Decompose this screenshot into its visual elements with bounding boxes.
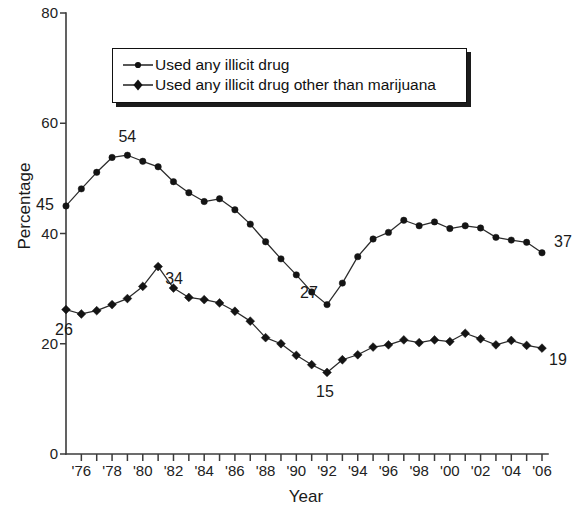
data-point-diamond[interactable] bbox=[307, 360, 316, 369]
data-point-circle[interactable] bbox=[140, 158, 146, 164]
data-point-diamond[interactable] bbox=[476, 334, 485, 343]
data-point-diamond[interactable] bbox=[77, 310, 86, 319]
series-line-0 bbox=[66, 155, 542, 304]
y-tick-label: 60 bbox=[14, 115, 58, 130]
data-point-circle[interactable] bbox=[94, 169, 100, 175]
legend-label-0: Used any illicit drug bbox=[155, 57, 289, 73]
data-point-circle[interactable] bbox=[370, 236, 376, 242]
data-point-diamond[interactable] bbox=[415, 338, 424, 347]
data-point-circle[interactable] bbox=[431, 219, 437, 225]
data-point-diamond[interactable] bbox=[108, 300, 117, 309]
value-annotation: 37 bbox=[554, 234, 572, 250]
data-point-diamond[interactable] bbox=[461, 329, 470, 338]
diamond-marker-icon bbox=[121, 76, 155, 94]
data-point-circle[interactable] bbox=[63, 203, 69, 209]
data-point-circle[interactable] bbox=[477, 225, 483, 231]
data-point-circle[interactable] bbox=[416, 223, 422, 229]
value-annotation: 54 bbox=[118, 129, 136, 145]
x-axis-title: Year bbox=[66, 487, 546, 507]
data-point-diamond[interactable] bbox=[231, 307, 240, 316]
chart-legend: Used any illicit drug Used any illicit d… bbox=[112, 48, 467, 103]
circle-marker-icon bbox=[121, 56, 155, 74]
legend-entry-any-illicit-drug[interactable]: Used any illicit drug bbox=[121, 55, 458, 75]
data-point-diamond[interactable] bbox=[445, 337, 454, 346]
value-annotation: 19 bbox=[549, 352, 567, 368]
legend-label-1: Used any illicit drug other than marijua… bbox=[155, 77, 436, 93]
data-point-circle[interactable] bbox=[109, 154, 115, 160]
data-point-circle[interactable] bbox=[247, 221, 253, 227]
y-axis-title: Percentage bbox=[15, 146, 35, 266]
data-point-circle[interactable] bbox=[232, 207, 238, 213]
data-point-diamond[interactable] bbox=[62, 305, 71, 314]
data-point-circle[interactable] bbox=[216, 196, 222, 202]
value-annotation: 27 bbox=[300, 285, 318, 301]
legend-entry-other-than-marijuana[interactable]: Used any illicit drug other than marijua… bbox=[121, 75, 458, 95]
data-point-diamond[interactable] bbox=[200, 295, 209, 304]
data-point-circle[interactable] bbox=[324, 301, 330, 307]
data-point-circle[interactable] bbox=[539, 250, 545, 256]
data-point-circle[interactable] bbox=[355, 253, 361, 259]
data-point-circle[interactable] bbox=[462, 223, 468, 229]
data-point-circle[interactable] bbox=[124, 152, 130, 158]
data-point-circle[interactable] bbox=[385, 229, 391, 235]
data-point-circle[interactable] bbox=[523, 239, 529, 245]
value-annotation: 45 bbox=[36, 197, 54, 213]
data-point-circle[interactable] bbox=[170, 178, 176, 184]
data-point-diamond[interactable] bbox=[538, 344, 547, 353]
data-point-circle[interactable] bbox=[186, 190, 192, 196]
data-point-diamond[interactable] bbox=[369, 343, 378, 352]
data-point-diamond[interactable] bbox=[522, 341, 531, 350]
data-point-diamond[interactable] bbox=[492, 340, 501, 349]
data-point-circle[interactable] bbox=[508, 237, 514, 243]
data-point-diamond[interactable] bbox=[430, 335, 439, 344]
data-point-circle[interactable] bbox=[201, 198, 207, 204]
data-point-diamond[interactable] bbox=[399, 335, 408, 344]
data-point-diamond[interactable] bbox=[353, 350, 362, 359]
data-point-circle[interactable] bbox=[293, 272, 299, 278]
data-point-circle[interactable] bbox=[339, 280, 345, 286]
y-tick-label: 20 bbox=[14, 336, 58, 351]
value-annotation: 26 bbox=[55, 322, 73, 338]
y-tick-label: 0 bbox=[14, 446, 58, 461]
data-point-diamond[interactable] bbox=[384, 340, 393, 349]
data-point-diamond[interactable] bbox=[215, 299, 224, 308]
data-point-diamond[interactable] bbox=[92, 306, 101, 315]
value-annotation: 34 bbox=[165, 271, 183, 287]
data-point-circle[interactable] bbox=[447, 225, 453, 231]
data-point-circle[interactable] bbox=[278, 256, 284, 262]
y-tick-label: 80 bbox=[14, 5, 58, 20]
data-point-circle[interactable] bbox=[262, 239, 268, 245]
data-point-diamond[interactable] bbox=[507, 336, 516, 345]
value-annotation: 15 bbox=[316, 384, 334, 400]
data-point-circle[interactable] bbox=[493, 234, 499, 240]
data-point-circle[interactable] bbox=[401, 217, 407, 223]
data-series-group bbox=[62, 152, 547, 377]
x-tick-label: '06 bbox=[522, 463, 562, 478]
data-point-circle[interactable] bbox=[155, 164, 161, 170]
data-point-diamond[interactable] bbox=[184, 293, 193, 302]
chart-figure: 020406080 '76'78'80'82'84'86'88'90'92'94… bbox=[0, 0, 576, 517]
data-point-circle[interactable] bbox=[78, 186, 84, 192]
